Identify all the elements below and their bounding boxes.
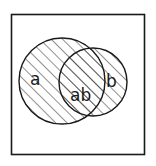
set-a-label: a <box>30 69 40 89</box>
intersection-ab-label: ab <box>70 85 91 105</box>
set-b-label: b <box>106 71 117 91</box>
venn-diagram: a b ab <box>0 0 156 166</box>
